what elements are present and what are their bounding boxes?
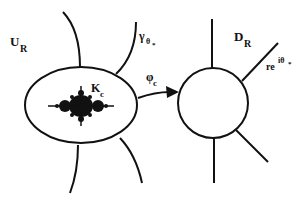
- svg-text:D: D: [234, 29, 243, 44]
- svg-text:R: R: [244, 38, 252, 49]
- svg-text:γ: γ: [138, 29, 145, 43]
- left-top-ray: [63, 12, 80, 67]
- conformal-map-diagram: U R γ θ * K c φ c D R re iθ *: [0, 0, 301, 198]
- svg-text:c: c: [100, 89, 104, 99]
- phi-arrow: [138, 92, 170, 98]
- mandelbrot-set-icon: [48, 86, 114, 126]
- svg-text:*: *: [152, 41, 156, 49]
- svg-text:R: R: [20, 43, 28, 54]
- svg-text:re: re: [266, 61, 275, 72]
- label-gamma: γ θ *: [138, 29, 156, 49]
- disk-domain: [178, 68, 248, 138]
- label-phi-c: φ c: [146, 70, 157, 88]
- svg-text:*: *: [288, 60, 292, 68]
- disk-bottom-diag-ray: [236, 130, 268, 162]
- left-bottom-ray: [70, 145, 78, 193]
- label-K-c: K c: [91, 81, 104, 99]
- svg-text:c: c: [153, 78, 157, 88]
- svg-text:iθ: iθ: [278, 56, 284, 65]
- right-bottom-ray: [120, 138, 142, 183]
- label-D-R: D R: [234, 29, 252, 49]
- label-U-R: U R: [10, 34, 28, 54]
- arrow-head-icon: [166, 86, 179, 98]
- gamma-ray: [116, 22, 136, 74]
- svg-text:U: U: [10, 34, 20, 49]
- svg-text:θ: θ: [146, 37, 150, 46]
- label-ray: re iθ *: [266, 56, 292, 72]
